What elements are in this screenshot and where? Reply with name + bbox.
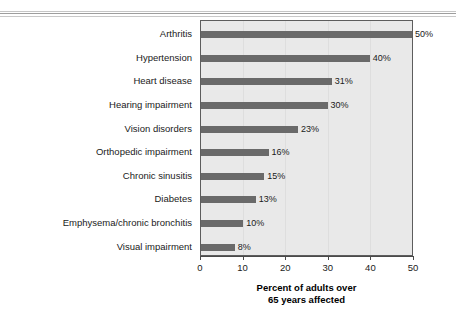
category-label: Arthritis — [0, 22, 196, 46]
x-tick-50 — [413, 256, 414, 260]
category-axis-labels: ArthritisHypertensionHeart diseaseHearin… — [0, 20, 196, 256]
category-label: Heart disease — [0, 69, 196, 93]
bar — [201, 102, 328, 109]
bar-value-label: 30% — [331, 101, 349, 110]
bar — [201, 31, 412, 38]
x-tick-label: 10 — [237, 262, 248, 273]
bar-row: 13% — [201, 188, 412, 212]
x-tick-label: 40 — [365, 262, 376, 273]
bar-value-label: 40% — [373, 54, 391, 63]
bar — [201, 149, 269, 156]
category-label: Hypertension — [0, 46, 196, 70]
bar-row: 50% — [201, 23, 412, 47]
bar-chart: ArthritisHypertensionHeart diseaseHearin… — [0, 0, 456, 324]
category-label: Hearing impairment — [0, 93, 196, 117]
bar — [201, 78, 332, 85]
x-tick-label: 50 — [408, 262, 419, 273]
x-axis-title-line1: Percent of adults over — [200, 282, 413, 294]
bar-value-label: 23% — [301, 125, 319, 134]
x-axis-title: Percent of adults over 65 years affected — [200, 282, 413, 306]
bar-row: 31% — [201, 70, 412, 94]
bar — [201, 196, 256, 203]
x-tick-10 — [243, 256, 244, 260]
x-tick-0 — [200, 256, 201, 260]
bar-value-label: 13% — [259, 195, 277, 204]
bar-value-label: 8% — [238, 243, 251, 252]
category-label: Orthopedic impairment — [0, 140, 196, 164]
bar-row: 40% — [201, 47, 412, 71]
category-label: Chronic sinusitis — [0, 164, 196, 188]
bar-row: 16% — [201, 141, 412, 165]
bar — [201, 173, 264, 180]
x-tick-label: 0 — [197, 262, 202, 273]
x-axis-title-line2: 65 years affected — [200, 294, 413, 306]
bar — [201, 126, 298, 133]
bar-row: 10% — [201, 212, 412, 236]
bar-value-label: 31% — [335, 77, 353, 86]
x-tick-30 — [328, 256, 329, 260]
x-tick-label: 30 — [323, 262, 334, 273]
x-tick-20 — [285, 256, 286, 260]
bar — [201, 220, 243, 227]
category-label: Emphysema/chronic bronchitis — [0, 211, 196, 235]
bar-row: 15% — [201, 165, 412, 189]
bar-row: 23% — [201, 117, 412, 141]
category-label: Vision disorders — [0, 116, 196, 140]
category-label: Visual impairment — [0, 234, 196, 258]
plot-area: 50%40%31%30%23%16%15%13%10%8% — [200, 20, 413, 256]
x-tick-40 — [370, 256, 371, 260]
bar-row: 30% — [201, 94, 412, 118]
x-axis: 01020304050 — [200, 256, 413, 257]
bar-value-label: 16% — [272, 148, 290, 157]
x-tick-label: 20 — [280, 262, 291, 273]
bar — [201, 55, 370, 62]
bar-value-label: 10% — [246, 219, 264, 228]
bar-value-label: 50% — [415, 30, 433, 39]
category-label: Diabetes — [0, 187, 196, 211]
bar-series: 50%40%31%30%23%16%15%13%10%8% — [201, 21, 412, 255]
bar-value-label: 15% — [267, 172, 285, 181]
bar — [201, 244, 235, 251]
